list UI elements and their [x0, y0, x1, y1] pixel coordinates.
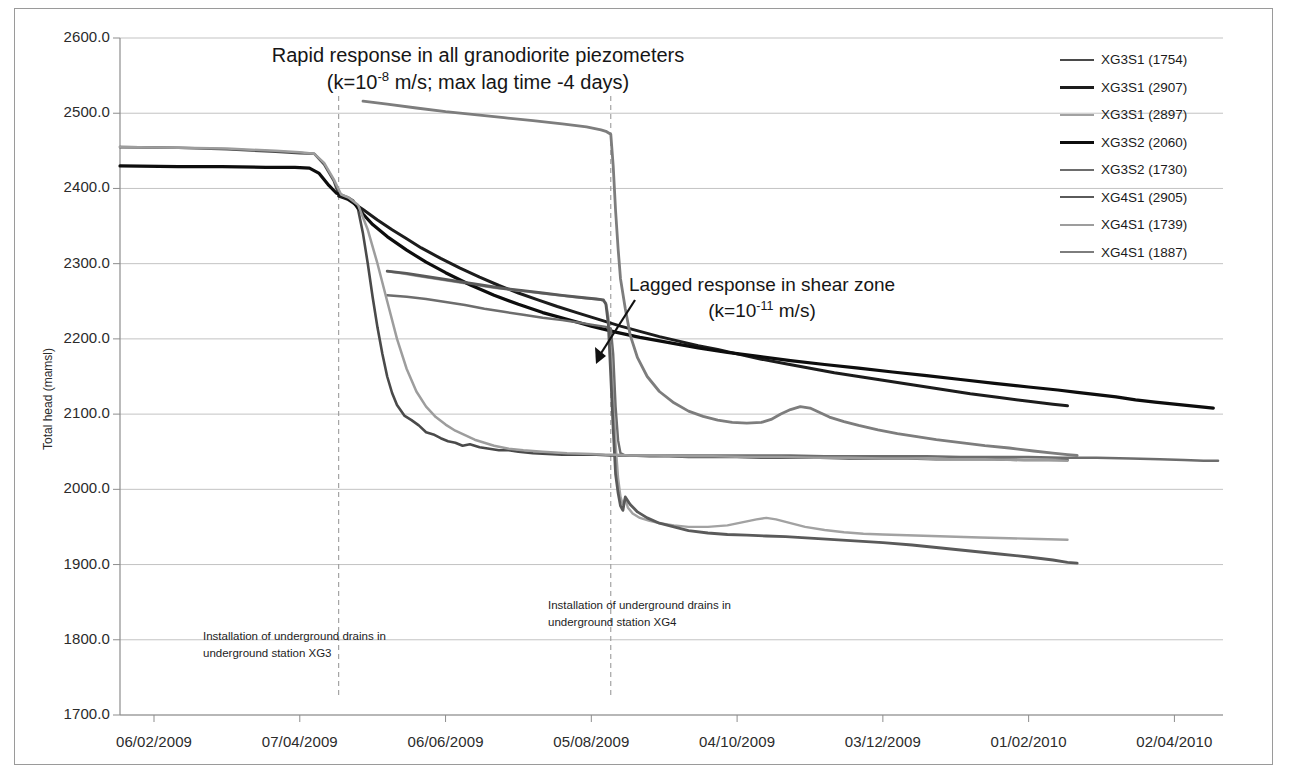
legend-item-2[interactable]: XG3S1 (2897): [1060, 101, 1265, 129]
legend-item-1[interactable]: XG3S1 (2907): [1060, 74, 1265, 102]
legend-item-label: XG3S1 (2897): [1101, 107, 1187, 122]
annotation-rapid-response-line2: (k=10-8 m/s; max lag time -4 days): [243, 68, 713, 95]
x-tick-label: 07/04/2009: [235, 733, 365, 750]
anno2-sup: -11: [756, 299, 773, 313]
legend-item-label: XG3S1 (1754): [1101, 52, 1187, 67]
annotation-rapid-response: Rapid response in all granodiorite piezo…: [243, 42, 713, 95]
anno2-post: m/s): [774, 300, 816, 321]
annotation-drain-xg4: Installation of underground drains in un…: [548, 597, 798, 630]
anno1-sup: -8: [377, 69, 389, 84]
series-line-0: [120, 147, 1068, 460]
annotation-lagged-response: Lagged response in shear zone (k=10-11 m…: [612, 272, 912, 324]
annotation-drain-xg3: Installation of underground drains in un…: [203, 628, 453, 661]
anno1-post: m/s; max lag time -4 days): [389, 71, 629, 93]
data-series-group: [120, 101, 1218, 563]
legend-item-4[interactable]: XG3S2 (1730): [1060, 156, 1265, 184]
legend-item-7[interactable]: XG4S1 (1887): [1060, 239, 1265, 267]
legend-item-6[interactable]: XG4S1 (1739): [1060, 211, 1265, 239]
legend-item-label: XG4S1 (1739): [1101, 217, 1187, 232]
x-tick-label: 02/04/2010: [1109, 733, 1239, 750]
y-tick-label: 2600.0: [24, 28, 110, 45]
y-tick-label: 2100.0: [24, 404, 110, 421]
legend-line-swatch: [1060, 196, 1094, 198]
legend-item-3[interactable]: XG3S2 (2060): [1060, 129, 1265, 157]
x-tick-label: 06/02/2009: [89, 733, 219, 750]
x-tick-label: 06/06/2009: [381, 733, 511, 750]
legend-line-swatch: [1060, 224, 1094, 226]
anno1-pre: (k=10: [327, 71, 378, 93]
chart-figure: Total head (mamsl) 2600.02500.02400.0230…: [0, 0, 1290, 781]
legend-line-swatch: [1060, 169, 1094, 171]
y-tick-label: 2500.0: [24, 103, 110, 120]
legend-line-swatch: [1060, 251, 1094, 253]
x-tick-label: 05/08/2009: [526, 733, 656, 750]
legend-item-0[interactable]: XG3S1 (1754): [1060, 46, 1265, 74]
legend-item-label: XG4S1 (1887): [1101, 245, 1187, 260]
x-tick-label: 04/10/2009: [672, 733, 802, 750]
y-tick-label: 2000.0: [24, 479, 110, 496]
legend-item-label: XG3S2 (1730): [1101, 162, 1187, 177]
legend-line-swatch: [1060, 86, 1094, 89]
annotation-rapid-response-line1: Rapid response in all granodiorite piezo…: [243, 42, 713, 68]
y-tick-label: 2300.0: [24, 254, 110, 271]
legend-item-label: XG3S2 (2060): [1101, 135, 1187, 150]
annotation-lagged-response-line1: Lagged response in shear zone: [612, 272, 912, 298]
legend-item-label: XG4S1 (2905): [1101, 190, 1187, 205]
anno2-pre: (k=10: [708, 300, 756, 321]
y-tick-label: 2400.0: [24, 178, 110, 195]
y-tick-label: 1700.0: [24, 705, 110, 722]
annotation-lagged-response-line2: (k=10-11 m/s): [612, 298, 912, 324]
y-tick-label: 1900.0: [24, 555, 110, 572]
legend-line-swatch: [1060, 114, 1094, 116]
legend-line-swatch: [1060, 59, 1094, 61]
chart-legend: XG3S1 (1754)XG3S1 (2907)XG3S1 (2897)XG3S…: [1060, 46, 1265, 266]
legend-item-label: XG3S1 (2907): [1101, 80, 1187, 95]
y-tick-label: 1800.0: [24, 630, 110, 647]
x-tick-label: 03/12/2009: [818, 733, 948, 750]
legend-item-5[interactable]: XG4S1 (2905): [1060, 184, 1265, 212]
x-tick-label: 01/02/2010: [964, 733, 1094, 750]
y-tick-label: 2200.0: [24, 329, 110, 346]
legend-line-swatch: [1060, 141, 1094, 144]
